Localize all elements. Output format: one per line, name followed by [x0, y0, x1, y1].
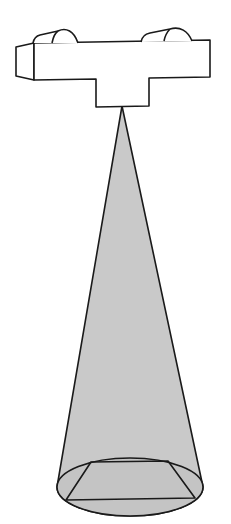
satellite-left-face — [16, 43, 34, 80]
left-dome — [33, 30, 78, 44]
ground-footprint — [57, 458, 203, 516]
satellite-sensor-diagram — [0, 0, 231, 524]
view-cone — [57, 106, 203, 516]
satellite-body — [34, 40, 210, 107]
satellite — [16, 28, 210, 107]
